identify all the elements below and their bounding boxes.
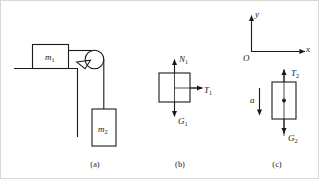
label-normal-force-b: N1 (178, 54, 188, 65)
label-tension-c: T2 (291, 68, 299, 79)
figure-canvas: m1 m2 N1 (0, 0, 320, 180)
label-tension-b: T1 (204, 85, 212, 96)
panel-c: y x O a T2 G2 (243, 9, 310, 144)
label-gravity-c: G2 (288, 133, 298, 144)
physics-figure: m1 m2 N1 (0, 0, 320, 180)
center-point-c (282, 99, 286, 103)
label-axis-x: x (305, 44, 310, 54)
label-gravity-b: G1 (178, 116, 188, 127)
pulley-wheel (85, 50, 104, 69)
label-acceleration-c: a (250, 95, 255, 105)
label-axis-origin: O (243, 53, 250, 63)
panel-b: N1 T1 G1 (159, 54, 212, 127)
caption-b: (b) (175, 160, 185, 169)
panel-a: m1 m2 (14, 45, 116, 147)
caption-a: (a) (90, 160, 100, 169)
caption-c: (c) (272, 160, 282, 169)
label-axis-y: y (254, 9, 259, 19)
